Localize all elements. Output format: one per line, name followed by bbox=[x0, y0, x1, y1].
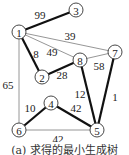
mst-graph: 9939498285812165104242 13782465 bbox=[0, 0, 129, 142]
svg-text:2: 2 bbox=[39, 72, 45, 84]
svg-text:5: 5 bbox=[94, 125, 100, 137]
node-5: 5 bbox=[90, 123, 104, 137]
edge-weight-1-8: 49 bbox=[47, 46, 59, 58]
svg-text:1: 1 bbox=[16, 27, 22, 39]
edge-weight-1-2: 8 bbox=[33, 48, 39, 60]
node-8: 8 bbox=[73, 53, 87, 67]
node-7: 7 bbox=[108, 45, 122, 59]
node-6: 6 bbox=[12, 123, 26, 137]
edge-weight-6-4: 10 bbox=[25, 102, 37, 114]
edge-1-3 bbox=[19, 10, 76, 32]
svg-text:7: 7 bbox=[112, 47, 118, 59]
svg-text:4: 4 bbox=[48, 98, 54, 110]
edge-weight-7-5: 1 bbox=[112, 91, 118, 103]
svg-text:8: 8 bbox=[77, 55, 83, 67]
edge-weight-2-8: 28 bbox=[57, 69, 69, 81]
node-4: 4 bbox=[44, 96, 58, 110]
svg-text:3: 3 bbox=[73, 5, 79, 17]
svg-text:6: 6 bbox=[16, 125, 22, 137]
edge-weight-1-3: 99 bbox=[35, 9, 47, 21]
node-2: 2 bbox=[35, 70, 49, 84]
figure-caption: (a) 求得的最小生成树 bbox=[0, 141, 129, 155]
edge-weight-8-5: 12 bbox=[75, 88, 86, 100]
edge-weight-4-5: 42 bbox=[71, 102, 82, 114]
edge-weight-1-6: 65 bbox=[3, 79, 15, 91]
edge-weight-1-7: 39 bbox=[65, 30, 77, 42]
node-1: 1 bbox=[12, 25, 26, 39]
node-3: 3 bbox=[69, 3, 83, 17]
edge-weight-8-7: 58 bbox=[94, 60, 106, 72]
